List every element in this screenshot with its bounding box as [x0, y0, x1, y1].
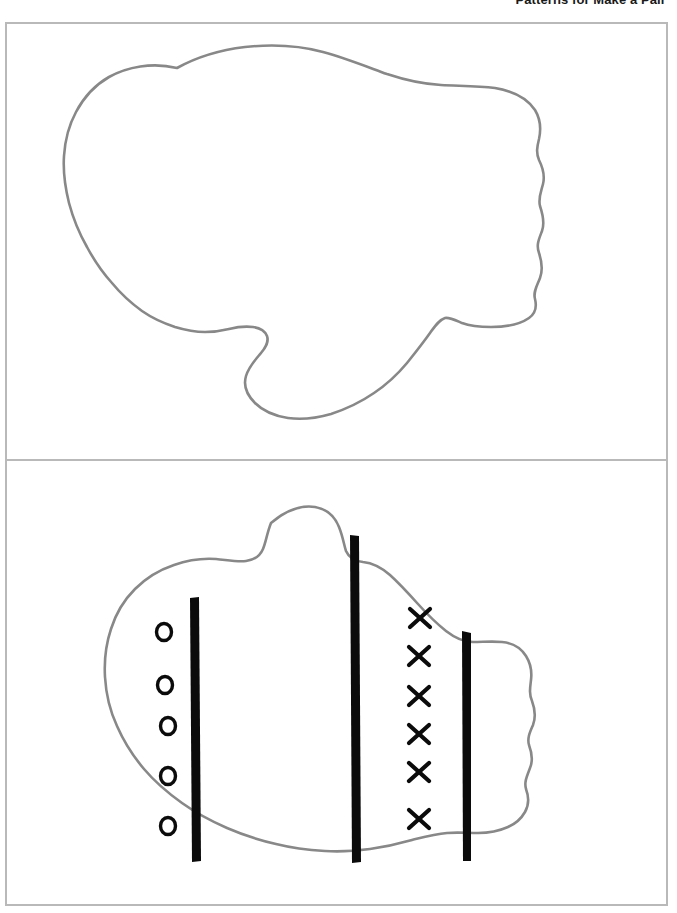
- worksheet-page: Patterns for Make a Pair: [0, 0, 677, 913]
- blank-mitten-drawing: [5, 22, 668, 459]
- vertical-stripe-3: [462, 631, 471, 861]
- decorated-mitten-drawing: [5, 461, 668, 906]
- panel-blank-mitten: [5, 22, 668, 459]
- mitten-outline-blank: [64, 46, 544, 419]
- circle-mark-5: [161, 818, 176, 835]
- page-title: Patterns for Make a Pair: [0, 0, 672, 6]
- panel-decorated-mitten: [5, 461, 668, 906]
